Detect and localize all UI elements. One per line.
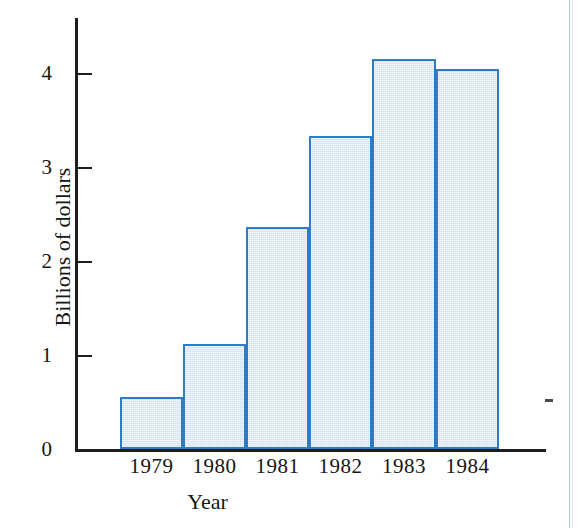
x-tick-label-1982: 1982 bbox=[309, 456, 372, 477]
y-tick-mark-0 bbox=[78, 449, 92, 451]
bar-1981 bbox=[246, 227, 309, 449]
bar-1984 bbox=[436, 69, 499, 449]
y-tick-mark-1 bbox=[78, 355, 92, 357]
y-tick-mark-4 bbox=[78, 73, 92, 75]
y-tick-label-4-text: 4 bbox=[42, 63, 53, 84]
y-tick-label-0-text: 0 bbox=[42, 439, 53, 460]
y-axis-title: Billions of dollars bbox=[50, 97, 76, 397]
bar-1980 bbox=[183, 344, 246, 449]
x-tick-label-1979: 1979 bbox=[120, 456, 183, 477]
bar-1982 bbox=[309, 136, 372, 449]
page-edge-line bbox=[569, 0, 570, 528]
page-smudge-mark bbox=[545, 399, 553, 402]
bar-chart-figure: 4 3 2 1 0 1979 1980 1981 1982 1983 1984 … bbox=[0, 0, 585, 528]
x-tick-label-1980: 1980 bbox=[183, 456, 246, 477]
x-axis-line bbox=[75, 449, 546, 452]
x-tick-label-1983: 1983 bbox=[372, 456, 436, 477]
x-tick-label-1984: 1984 bbox=[436, 456, 499, 477]
page-edge-line-secondary bbox=[572, 0, 573, 528]
y-tick-mark-2 bbox=[78, 261, 92, 263]
bar-1979 bbox=[120, 397, 183, 449]
x-tick-label-1981: 1981 bbox=[246, 456, 309, 477]
x-axis-title-text: Year bbox=[187, 489, 228, 514]
y-tick-mark-3 bbox=[78, 167, 92, 169]
x-axis-title: Year bbox=[0, 489, 585, 515]
bar-1983 bbox=[372, 59, 436, 449]
